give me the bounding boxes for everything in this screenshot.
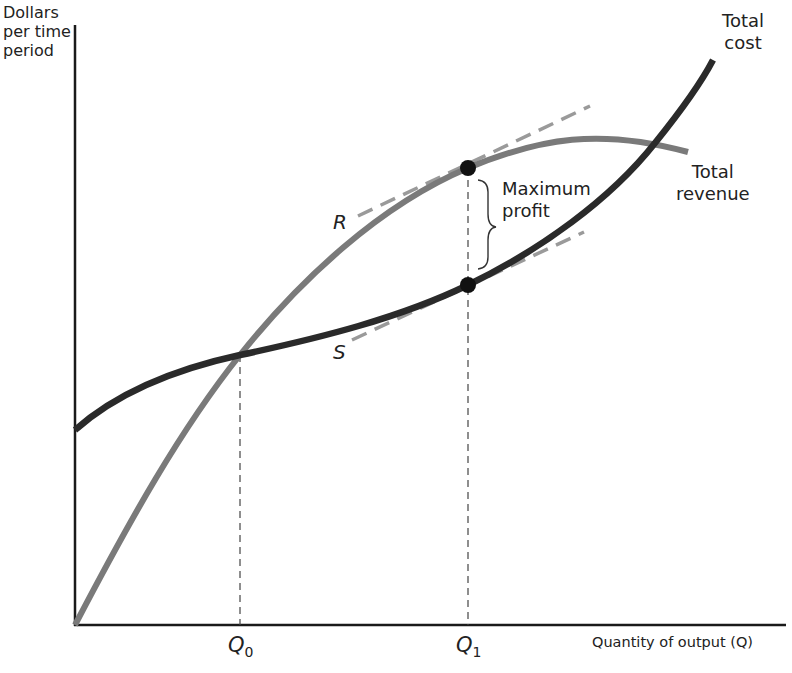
total-cost-label: Total cost (722, 10, 764, 53)
max-profit-brace (478, 180, 496, 269)
total-cost-curve (75, 60, 713, 430)
q-symbol: Q (456, 633, 473, 657)
tc-point-q1 (460, 277, 476, 293)
total-revenue-curve (75, 139, 688, 625)
total-revenue-label: Total revenue (676, 161, 750, 204)
y-axis-label-line: per time (3, 22, 71, 41)
total-cost-label-line: Total (722, 10, 764, 32)
q1-subscript: 1 (473, 644, 482, 660)
x-axis-label: Quantity of output (Q) (592, 634, 753, 651)
chart-canvas (0, 0, 792, 673)
maximum-profit-label: Maximum profit (502, 178, 591, 221)
total-revenue-label-line: revenue (676, 183, 750, 205)
maximum-profit-label-line: profit (502, 200, 591, 222)
y-axis-label-line: Dollars (3, 3, 71, 22)
x-tick-q0: Q0 (228, 633, 253, 660)
total-cost-label-line: cost (722, 32, 764, 54)
q0-subscript: 0 (245, 644, 254, 660)
y-axis-label: Dollars per time period (3, 3, 71, 61)
maximum-profit-label-line: Maximum (502, 178, 591, 200)
tr-point-q1 (460, 160, 476, 176)
total-revenue-label-line: Total (676, 161, 750, 183)
y-axis-label-line: period (3, 41, 71, 60)
q-symbol: Q (228, 633, 245, 657)
x-tick-q1: Q1 (456, 633, 481, 660)
tangent-s-label: S (333, 341, 346, 364)
tangent-r-label: R (333, 211, 347, 234)
